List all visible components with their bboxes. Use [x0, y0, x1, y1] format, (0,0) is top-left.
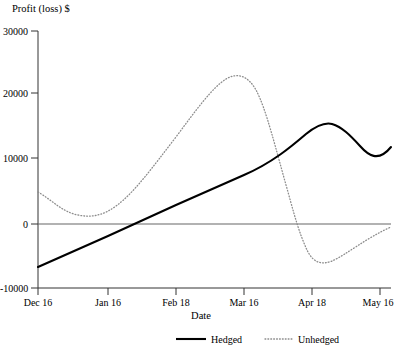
y-tick-label-20000: 20000 — [0, 88, 28, 99]
chart-plot-area — [0, 0, 402, 352]
y-tick-label-10000: 10000 — [0, 153, 28, 164]
x-axis-title: Date — [0, 310, 402, 321]
x-axis-ticks — [38, 288, 380, 295]
y-axis-ticks — [31, 31, 38, 288]
y-tick-label-30000: 30000 — [0, 26, 28, 37]
x-tick-label-feb-18: Feb 18 — [162, 297, 190, 308]
legend-label-hedged: Hedged — [211, 334, 242, 345]
profit-loss-chart: Profit (loss) $ — [0, 0, 402, 352]
series-line-unhedged — [38, 76, 391, 263]
legend-label-unhedged: Unhedged — [298, 334, 339, 345]
x-tick-label-may-16: May 16 — [363, 297, 394, 308]
y-tick-label-0: 0 — [0, 219, 28, 230]
x-tick-label-dec-16: Dec 16 — [24, 297, 53, 308]
series-line-hedged — [38, 123, 391, 267]
x-tick-label-apr-18: Apr 18 — [298, 297, 326, 308]
x-tick-label-jan-16: Jan 16 — [95, 297, 121, 308]
y-tick-label-minus-10000: -10000 — [0, 283, 28, 294]
x-tick-label-mar-16: Mar 16 — [229, 297, 258, 308]
